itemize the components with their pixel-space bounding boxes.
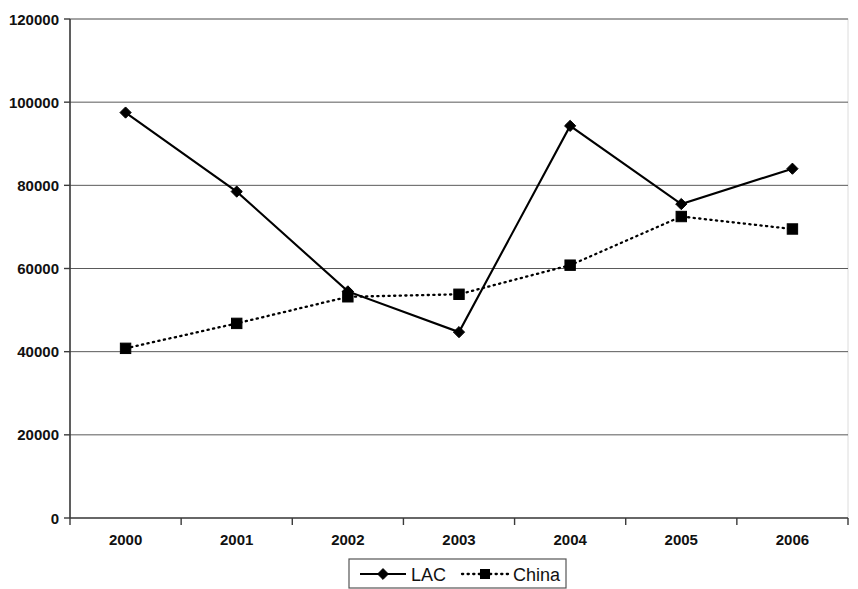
x-axis-tick-label: 2002 (331, 531, 364, 548)
y-axis-tick-label: 80000 (17, 177, 59, 194)
y-axis-ticks (64, 19, 70, 518)
x-axis-ticks (70, 518, 848, 525)
legend-marker-china-square-icon (481, 570, 490, 579)
line-chart: 020000400006000080000100000120000 200020… (0, 0, 858, 589)
x-axis-tick-label: 2000 (109, 531, 142, 548)
y-axis-tick-label: 120000 (9, 11, 59, 28)
data-point-marker-square-icon: China 2002: 53200 (343, 292, 353, 302)
data-point-marker-square-icon: China 2000: 40800 (120, 343, 130, 353)
x-axis-labels: 2000200120022003200420052006 (109, 531, 809, 548)
x-axis-tick-label: 2004 (553, 531, 587, 548)
legend-label-china: China (513, 565, 561, 585)
data-point-marker-square-icon: China 2001: 46800 (232, 318, 242, 328)
x-axis-tick-label: 2001 (220, 531, 253, 548)
y-axis-labels: 020000400006000080000100000120000 (9, 11, 59, 527)
data-point-marker-square-icon: China 2004: 60800 (565, 260, 575, 270)
legend-label-lac: LAC (411, 565, 446, 585)
data-point-marker-square-icon: China 2003: 53800 (454, 289, 464, 299)
y-axis-tick-label: 100000 (9, 94, 59, 111)
y-axis-tick-label: 60000 (17, 260, 59, 277)
x-axis-tick-label: 2006 (776, 531, 809, 548)
x-axis-tick-label: 2003 (442, 531, 475, 548)
chart-legend: LAC China (349, 559, 566, 588)
y-axis-tick-label: 20000 (17, 426, 59, 443)
data-point-marker-square-icon: China 2005: 72500 (676, 211, 686, 221)
x-axis-tick-label: 2005 (665, 531, 698, 548)
data-point-marker-square-icon: China 2006: 69500 (787, 224, 797, 234)
y-axis-tick-label: 0 (51, 510, 59, 527)
chart-container: 020000400006000080000100000120000 200020… (0, 0, 858, 589)
y-axis-tick-label: 40000 (17, 343, 59, 360)
